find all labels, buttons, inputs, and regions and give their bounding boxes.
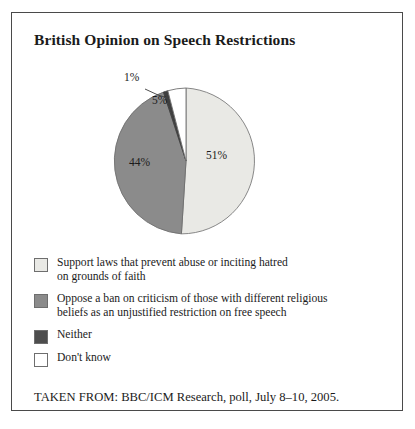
legend-label-oppose-line2: beliefs as an unjustified restriction on… [57, 306, 287, 319]
chart-page: British Opinion on Speech Restrictions 5… [0, 0, 415, 429]
legend-item-dont-know: Don't know [34, 351, 384, 367]
pie-chart: 51% 44% 1% 5% [12, 65, 404, 250]
pie-value-label-neither: 1% [124, 71, 139, 83]
legend-item-neither: Neither [34, 328, 384, 344]
legend-label-support-line2: on grounds of faith [57, 270, 146, 283]
legend-swatch-oppose [34, 294, 48, 308]
legend-swatch-support [34, 258, 48, 272]
legend-swatch-neither [34, 330, 48, 344]
legend-label-neither: Neither [57, 328, 92, 342]
legend-label-oppose-line1: Oppose a ban on criticism of those with … [57, 292, 328, 305]
legend-swatch-dont-know [34, 353, 48, 367]
legend-item-oppose: Oppose a ban on criticism of those with … [34, 292, 384, 319]
legend-label-support: Support laws that prevent abuse or incit… [57, 256, 288, 283]
legend-label-dont-know: Don't know [57, 351, 111, 365]
legend-label-oppose: Oppose a ban on criticism of those with … [57, 292, 328, 319]
chart-frame: British Opinion on Speech Restrictions 5… [11, 12, 403, 411]
pie-value-label-oppose: 44% [129, 156, 150, 168]
pie-value-label-dont-know: 5% [152, 94, 167, 106]
legend-item-support: Support laws that prevent abuse or incit… [34, 256, 384, 283]
legend-label-support-line1: Support laws that prevent abuse or incit… [57, 256, 288, 269]
chart-legend: Support laws that prevent abuse or incit… [34, 256, 384, 374]
pie-value-label-support: 51% [206, 149, 227, 161]
page-title: British Opinion on Speech Restrictions [34, 31, 295, 49]
source-attribution: TAKEN FROM: BBC/ICM Research, poll, July… [34, 390, 339, 405]
